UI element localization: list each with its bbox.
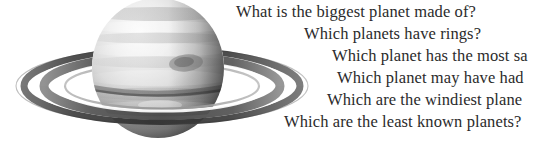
figure-canvas: What is the biggest planet made of? Whic… xyxy=(0,0,544,152)
question-list: What is the biggest planet made of? Whic… xyxy=(0,0,544,152)
question-line-3: Which planet has the most sa xyxy=(332,46,528,66)
question-line-2: Which planets have rings? xyxy=(304,24,481,44)
question-line-5: Which are the windiest plane xyxy=(327,90,522,110)
question-line-1: What is the biggest planet made of? xyxy=(236,2,476,22)
question-line-6: Which are the least known planets? xyxy=(284,112,522,132)
question-line-4: Which planet may have had xyxy=(337,68,524,88)
